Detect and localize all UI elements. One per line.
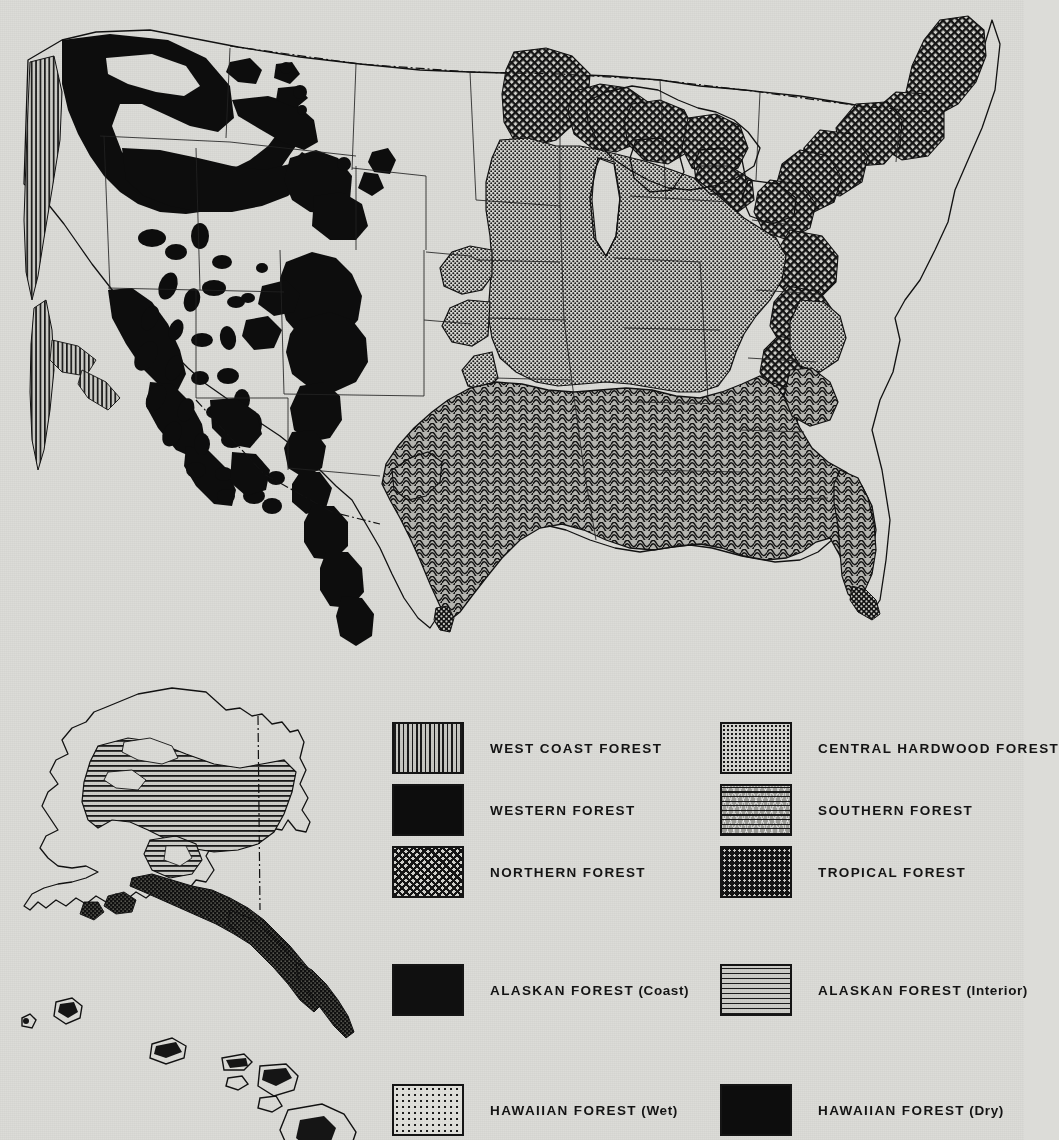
legend-item-alaskan-forest-interior[interactable]: ALASKAN FOREST (Interior) — [720, 964, 1028, 1016]
legend-label-alaskan-forest-interior: ALASKAN FOREST (Interior) — [818, 983, 1028, 998]
region-tropical-forest — [434, 586, 880, 632]
legend-item-western-forest[interactable]: WESTERN FOREST — [392, 784, 636, 836]
legend-swatch-western-forest — [392, 784, 464, 836]
legend-swatch-tropical-forest — [720, 846, 792, 898]
legend-label-hawaiian-forest-dry: HAWAIIAN FOREST (Dry) — [818, 1103, 1004, 1118]
map-legend: WEST COAST FORESTWESTERN FORESTNORTHERN … — [388, 706, 1024, 1136]
legend-label-central-hardwood-forest: CENTRAL HARDWOOD FOREST — [818, 741, 1059, 756]
hawaii-inset — [22, 998, 356, 1140]
legend-label-hawaiian-forest-wet: HAWAIIAN FOREST (Wet) — [490, 1103, 678, 1118]
legend-item-northern-forest[interactable]: NORTHERN FOREST — [392, 846, 646, 898]
alaska-hawaii-insets — [0, 680, 380, 1140]
legend-label-western-forest: WESTERN FOREST — [490, 803, 636, 818]
legend-swatch-southern-forest — [720, 784, 792, 836]
legend-swatch-hawaiian-forest-wet — [392, 1084, 464, 1136]
legend-item-hawaiian-forest-dry[interactable]: HAWAIIAN FOREST (Dry) — [720, 1084, 1004, 1136]
legend-label-alaskan-forest-coast: ALASKAN FOREST (Coast) — [490, 983, 689, 998]
us-map-svg — [0, 0, 1024, 690]
legend-item-southern-forest[interactable]: SOUTHERN FOREST — [720, 784, 973, 836]
legend-swatch-alaskan-forest-interior — [720, 964, 792, 1016]
region-southern-forest — [382, 368, 876, 620]
insets-svg — [0, 680, 380, 1140]
conterminous-us-map — [0, 0, 1024, 690]
legend-swatch-northern-forest — [392, 846, 464, 898]
legend-swatch-hawaiian-forest-dry — [720, 1084, 792, 1136]
legend-label-tropical-forest: TROPICAL FOREST — [818, 865, 966, 880]
alaska-inset — [24, 688, 354, 1038]
legend-item-hawaiian-forest-wet[interactable]: HAWAIIAN FOREST (Wet) — [392, 1084, 678, 1136]
legend-swatch-central-hardwood-forest — [720, 722, 792, 774]
region-western-forest — [62, 34, 396, 646]
legend-item-tropical-forest[interactable]: TROPICAL FOREST — [720, 846, 966, 898]
legend-label-northern-forest: NORTHERN FOREST — [490, 865, 646, 880]
legend-label-southern-forest: SOUTHERN FOREST — [818, 803, 973, 818]
legend-label-west-coast-forest: WEST COAST FOREST — [490, 741, 662, 756]
legend-item-west-coast-forest[interactable]: WEST COAST FOREST — [392, 722, 662, 774]
legend-item-central-hardwood-forest[interactable]: CENTRAL HARDWOOD FOREST — [720, 722, 1059, 774]
legend-swatch-alaskan-forest-coast — [392, 964, 464, 1016]
legend-item-alaskan-forest-coast[interactable]: ALASKAN FOREST (Coast) — [392, 964, 689, 1016]
legend-swatch-west-coast-forest — [392, 722, 464, 774]
